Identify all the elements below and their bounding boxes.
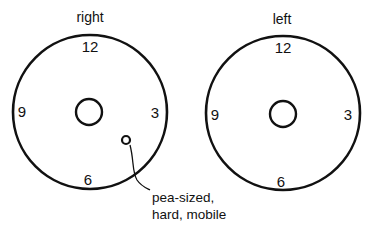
clock-9-left: 9 [211,106,219,123]
clock-6-left: 6 [277,173,285,190]
clock-3-right: 3 [151,104,159,121]
outer-circle-left [206,36,360,190]
lump-marker [122,136,130,144]
clock-12-right: 12 [82,38,99,55]
clock-3-left: 3 [344,106,352,123]
outer-circle-right [13,35,167,189]
annotation-leader-line [130,145,150,190]
clock-12-left: 12 [275,39,292,56]
clock-6-right: 6 [84,171,92,188]
right-breast-diagram: right 12 3 6 9 pea-sized, hard, mobile [13,9,226,222]
left-breast-diagram: left 12 3 6 9 [206,11,360,190]
diagram-title-left: left [273,11,292,27]
annotation-line-2: hard, mobile [152,207,226,222]
clock-9-right: 9 [18,103,26,120]
nipple-circle-right [76,99,102,125]
diagram-title-right: right [76,9,103,25]
breast-exam-diagram: right 12 3 6 9 pea-sized, hard, mobile l… [0,0,371,226]
nipple-circle-left [270,101,296,127]
annotation-line-1: pea-sized, [152,190,214,205]
